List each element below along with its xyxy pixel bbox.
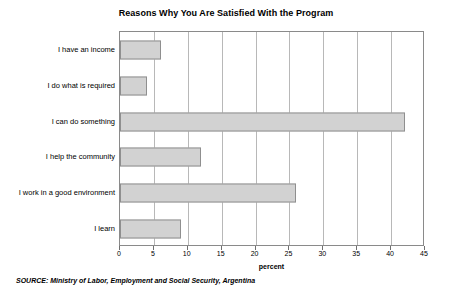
category-label: I help the community [4, 152, 119, 161]
bar-row [120, 140, 423, 176]
category-axis-labels: I have an incomeI do what is requiredI c… [0, 31, 119, 246]
x-tick-label: 45 [420, 250, 428, 257]
x-tick-label: 25 [285, 250, 293, 257]
x-tick-label: 30 [318, 250, 326, 257]
x-tick-label: 15 [217, 250, 225, 257]
bar [120, 184, 296, 203]
bar-row [120, 68, 423, 104]
bar-row [120, 211, 423, 247]
category-label: I have an income [4, 44, 119, 53]
x-tick-label: 20 [251, 250, 259, 257]
source-note: SOURCE: Ministry of Labor, Employment an… [16, 277, 255, 284]
x-tick-label: 40 [386, 250, 394, 257]
bar [120, 148, 201, 167]
category-label: I work in a good environment [4, 188, 119, 197]
bar [120, 220, 181, 239]
bar-chart: Reasons Why You Are Satisfied With the P… [0, 0, 452, 293]
x-tick-label: 10 [183, 250, 191, 257]
x-axis-title: percent [119, 263, 424, 270]
category-label: I can do something [4, 116, 119, 125]
bar-row [120, 32, 423, 68]
category-label: I learn [4, 224, 119, 233]
x-tick-label: 0 [117, 250, 121, 257]
bar [120, 76, 147, 95]
bar-row [120, 104, 423, 140]
bar [120, 40, 161, 59]
category-label: I do what is required [4, 80, 119, 89]
x-tick-label: 5 [151, 250, 155, 257]
chart-title: Reasons Why You Are Satisfied With the P… [0, 8, 452, 18]
bar-row [120, 175, 423, 211]
bar [120, 112, 405, 131]
plot-area [119, 31, 424, 246]
x-tick-label: 35 [352, 250, 360, 257]
